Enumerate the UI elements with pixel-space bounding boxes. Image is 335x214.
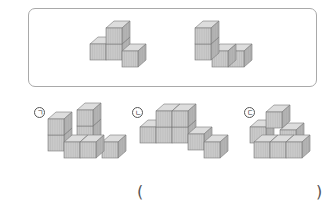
answer-blank[interactable] xyxy=(150,184,315,202)
option-c-figure xyxy=(250,105,310,158)
option-a-figure xyxy=(48,103,126,158)
answer-close-paren: ) xyxy=(316,182,322,201)
reference-shape-1 xyxy=(90,21,146,67)
option-b-label: ㄴ xyxy=(132,107,143,118)
option-a-label: ㄱ xyxy=(34,107,45,118)
answer-open-paren: ( xyxy=(137,182,143,201)
reference-shape-2 xyxy=(195,21,252,67)
cube-figures xyxy=(0,0,335,214)
option-b-figure xyxy=(140,104,228,158)
option-c-label: ㄷ xyxy=(244,107,255,118)
